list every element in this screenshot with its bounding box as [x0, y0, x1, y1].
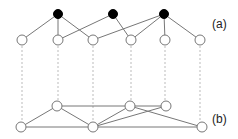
label-a: (a): [212, 17, 227, 31]
node-black: [160, 10, 169, 19]
nodes-black: [54, 10, 169, 19]
node-white: [195, 35, 205, 45]
node-white: [125, 101, 135, 111]
node-white: [160, 35, 170, 45]
bipartite-graph-diagram: (a) (b): [0, 0, 238, 139]
node-white: [88, 35, 98, 45]
label-b: (b): [212, 112, 227, 126]
node-white: [88, 122, 98, 132]
node-white: [16, 122, 26, 132]
node-white: [53, 35, 63, 45]
projection-lines: [22, 46, 200, 121]
node-black: [109, 10, 118, 19]
edges-b: [21, 106, 202, 127]
node-white: [161, 101, 171, 111]
node-white: [126, 35, 136, 45]
node-white: [52, 101, 62, 111]
node-black: [54, 10, 63, 19]
node-white: [17, 35, 27, 45]
node-white: [197, 122, 207, 132]
nodes-white: [16, 35, 207, 132]
